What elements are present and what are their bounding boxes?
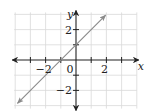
- labels: −222−20xy: [35, 8, 144, 97]
- coordinate-plane: −222−20xy: [0, 0, 147, 112]
- y-axis-label: y: [66, 8, 74, 21]
- origin-label: 0: [67, 63, 74, 76]
- x-tick-label: −2: [35, 63, 51, 76]
- x-tick-label: 2: [101, 63, 108, 76]
- x-axis-label: x: [138, 60, 145, 73]
- y-tick-label: 2: [65, 24, 72, 37]
- axes: [12, 10, 139, 110]
- y-tick-label: −2: [56, 84, 72, 97]
